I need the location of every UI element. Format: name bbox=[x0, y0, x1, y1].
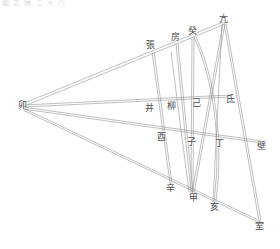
node-label-fang: 房 bbox=[171, 33, 180, 42]
chord-zhang-xin-b bbox=[154, 52, 172, 183]
chord-fang-jia-b bbox=[178, 44, 193, 192]
node-label-ding: 丁 bbox=[215, 139, 224, 148]
node-label-gui: 癸 bbox=[188, 27, 197, 36]
chord-gui-jia bbox=[191, 38, 192, 192]
node-label-zi: 子 bbox=[187, 138, 196, 147]
node-label-kang: 亢 bbox=[219, 15, 228, 24]
node-label-jing: 井 bbox=[145, 104, 154, 113]
node-label-ji: 己 bbox=[192, 99, 201, 108]
ray-group bbox=[22, 22, 262, 223]
node-label-you: 酉 bbox=[157, 133, 166, 142]
node-label-zhang: 張 bbox=[146, 41, 155, 50]
node-label-xin: 辛 bbox=[166, 184, 175, 193]
chord-gui-jia-b bbox=[193, 38, 194, 192]
diag-kang-jia bbox=[192, 24, 223, 193]
ray-to-bi-b bbox=[23, 109, 262, 143]
edge-kang-shi bbox=[224, 23, 259, 221]
node-label-hai: 亥 bbox=[210, 203, 219, 212]
node-label-shi: 室 bbox=[255, 222, 264, 231]
edge-kang-shi-b bbox=[226, 23, 261, 221]
diag-kang-jia-b bbox=[194, 24, 225, 193]
diagram-canvas: 圖 之 宿 二 十 八 bbox=[0, 0, 280, 249]
chord-zhang-xin bbox=[152, 52, 170, 183]
ray-to-bi bbox=[23, 107, 262, 141]
ray-to-shi bbox=[23, 108, 258, 220]
chord-fang-jia bbox=[176, 44, 191, 192]
node-label-mao: 卯 bbox=[18, 101, 27, 110]
chord-liu-jia bbox=[171, 52, 189, 192]
figure-svg bbox=[0, 0, 280, 249]
node-label-jia: 甲 bbox=[189, 194, 198, 203]
node-label-liu: 柳 bbox=[167, 102, 176, 111]
node-label-bi: 壁 bbox=[257, 142, 266, 151]
node-label-di: 氐 bbox=[226, 95, 235, 104]
ray-to-shi-b bbox=[24, 111, 259, 223]
